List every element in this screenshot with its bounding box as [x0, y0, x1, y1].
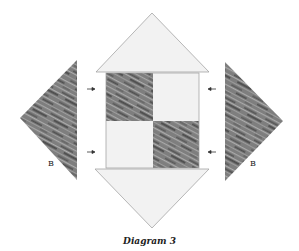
top-triangle	[96, 13, 209, 72]
left-piece-label: B	[48, 159, 54, 168]
patch-bottom-left-light	[106, 121, 153, 168]
arrow-right-icon	[87, 151, 95, 154]
patch-bottom-right-dark	[153, 121, 199, 168]
arrow-left-icon	[208, 88, 216, 91]
arrow-left-icon	[208, 151, 216, 154]
center-four-patch	[106, 73, 199, 168]
arrow-right-icon	[87, 88, 95, 91]
patch-top-right-light	[153, 73, 199, 121]
patch-top-left-dark	[106, 73, 153, 121]
right-piece-label: B	[250, 159, 256, 168]
bottom-triangle	[95, 169, 209, 228]
diagram-caption: Diagram 3	[0, 236, 299, 246]
quilt-assembly-diagram	[0, 0, 299, 251]
